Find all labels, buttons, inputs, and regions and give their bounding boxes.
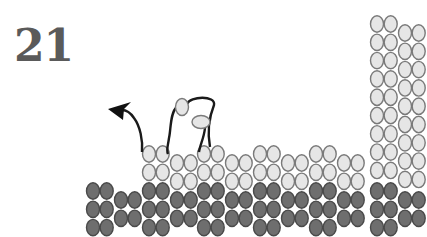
light-atom [239, 173, 252, 189]
dark-atom [184, 192, 197, 208]
light-atom [399, 98, 412, 114]
light-atom [310, 146, 323, 162]
light-atom [143, 146, 156, 162]
light-atom [371, 34, 384, 50]
dark-atom [115, 192, 128, 208]
dark-atom [323, 183, 336, 199]
dark-atom [351, 210, 364, 226]
light-atom [384, 126, 397, 142]
light-atom [412, 61, 425, 77]
light-atom [371, 16, 384, 32]
dark-atom [239, 192, 252, 208]
light-atom [412, 25, 425, 41]
light-atom [254, 164, 267, 180]
dark-atom [100, 201, 113, 217]
light-atom [282, 155, 295, 171]
dark-atom [128, 210, 141, 226]
dark-atom [100, 219, 113, 235]
dark-atom [267, 201, 280, 217]
dark-atom [156, 183, 169, 199]
dark-atom [143, 219, 156, 235]
light-atom [412, 153, 425, 169]
dark-atom [143, 183, 156, 199]
light-atom [399, 61, 412, 77]
dark-atom [171, 192, 184, 208]
dark-atom [412, 210, 425, 226]
dark-atom [211, 183, 224, 199]
dark-atom [239, 210, 252, 226]
light-atom [295, 155, 308, 171]
light-atom [412, 171, 425, 187]
light-atom [156, 164, 169, 180]
dark-atom [254, 219, 267, 235]
light-atom [384, 34, 397, 50]
dark-atom [211, 201, 224, 217]
dark-atom [310, 201, 323, 217]
dark-atom [198, 219, 211, 235]
lifted-atom [192, 116, 210, 129]
dark-atom [371, 201, 384, 217]
light-atom [384, 16, 397, 32]
dark-atom [384, 183, 397, 199]
dark-atom [143, 201, 156, 217]
light-atom [399, 80, 412, 96]
atomic-surface-diagram [0, 0, 427, 237]
light-atom [171, 173, 184, 189]
lifted-atoms [176, 99, 211, 129]
dark-atom [412, 192, 425, 208]
light-atom [323, 146, 336, 162]
dark-atom [267, 183, 280, 199]
dark-atom [198, 201, 211, 217]
dark-atom [295, 210, 308, 226]
dark-atom [399, 192, 412, 208]
light-atom [371, 126, 384, 142]
light-atom [239, 155, 252, 171]
light-atom [412, 135, 425, 151]
dark-atom [115, 210, 128, 226]
light-atom [384, 162, 397, 178]
light-atom [143, 164, 156, 180]
dark-atom [254, 183, 267, 199]
dark-atom [100, 183, 113, 199]
dark-atom [338, 192, 351, 208]
dark-atom [267, 219, 280, 235]
dark-atom [211, 219, 224, 235]
light-atom [384, 71, 397, 87]
dark-atom [323, 219, 336, 235]
light-atom [371, 162, 384, 178]
dark-atom [128, 192, 141, 208]
dark-atom [226, 192, 239, 208]
light-atom [384, 52, 397, 68]
dark-atom [87, 201, 100, 217]
light-atom [184, 173, 197, 189]
dark-atom [323, 201, 336, 217]
light-atom [282, 173, 295, 189]
light-atom [371, 89, 384, 105]
light-atom [399, 171, 412, 187]
light-atom [371, 107, 384, 123]
light-atom [338, 173, 351, 189]
light-atom [184, 155, 197, 171]
dark-atom [171, 210, 184, 226]
light-atom [211, 146, 224, 162]
dark-atom [295, 192, 308, 208]
dark-atom [184, 210, 197, 226]
light-atom [351, 155, 364, 171]
light-atom [226, 173, 239, 189]
light-atom [267, 146, 280, 162]
dark-atom [254, 201, 267, 217]
light-atom [412, 98, 425, 114]
light-atom [323, 164, 336, 180]
dark-atom [351, 192, 364, 208]
light-atom [310, 164, 323, 180]
light-atom [399, 153, 412, 169]
light-atom [295, 173, 308, 189]
light-atom [399, 25, 412, 41]
light-atom [399, 43, 412, 59]
dark-atom [87, 183, 100, 199]
light-atom [351, 173, 364, 189]
light-atom [384, 107, 397, 123]
light-atom [371, 52, 384, 68]
light-atom [371, 144, 384, 160]
removal-arrow-line [122, 110, 142, 152]
